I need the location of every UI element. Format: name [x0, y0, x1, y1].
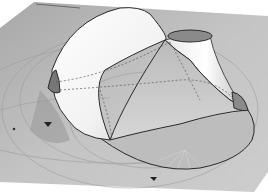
top-opening: [168, 30, 212, 42]
render-scene: [0, 0, 268, 196]
shell-surface-render: [0, 0, 268, 196]
ground-dot: [13, 128, 16, 131]
